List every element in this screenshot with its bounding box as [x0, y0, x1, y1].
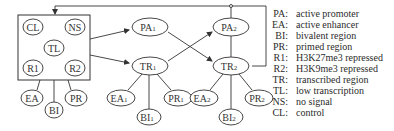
legend-row-tr: TR:transcribed region — [262, 74, 383, 85]
label-r1: R1 — [27, 63, 39, 74]
label-ea: EA — [25, 93, 39, 104]
legend-row-ns: NS:no signal — [262, 96, 383, 107]
label-cl: CL — [27, 22, 40, 33]
edge-tr1-ea1 — [128, 74, 142, 90]
legend-row-ea: EA:active enhancer — [262, 19, 383, 30]
label-tl: TL — [48, 43, 60, 54]
legend-row-bi: BI:bivalent region — [262, 30, 383, 41]
legend: PA:active promoter EA:active enhancer BI… — [262, 8, 383, 118]
edge-tr1-pr1 — [157, 74, 171, 90]
legend-row-cl: CL:control — [262, 107, 383, 118]
edge-tr2-ea2 — [210, 74, 223, 90]
label-ns: NS — [69, 22, 82, 33]
label-r2: R2 — [69, 63, 81, 74]
legend-row-pr: PR:primed region — [262, 41, 383, 52]
label-pr: PR — [70, 93, 83, 104]
edge-box-pa1 — [90, 30, 129, 39]
edge-tr2-pr2 — [239, 74, 252, 90]
junction-dot — [230, 5, 233, 8]
edge-box-ea — [37, 80, 40, 90]
legend-row-r2: R2:H3K9me3 repressed — [262, 63, 383, 74]
legend-row-tl: TL:low transcription — [262, 85, 383, 96]
edge-box-tr1 — [90, 55, 129, 63]
legend-row-pa: PA:active promoter — [262, 8, 383, 19]
label-bi: BI — [49, 105, 59, 116]
legend-row-r1: R1:H3K27me3 repressed — [262, 52, 383, 63]
edge-box-pr — [68, 80, 71, 90]
